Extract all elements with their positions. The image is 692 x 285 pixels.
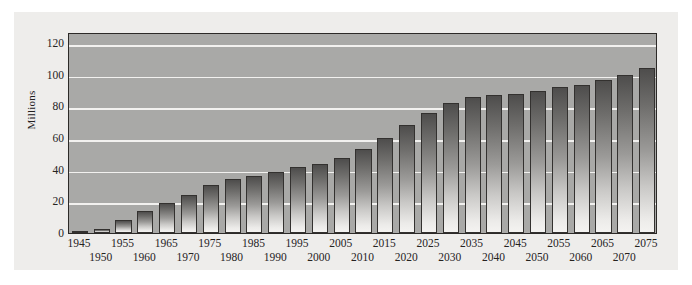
bar bbox=[115, 220, 131, 233]
bar bbox=[595, 80, 611, 233]
x-axis-tick-label: 1945 bbox=[62, 238, 96, 250]
x-axis-tick-label: 1995 bbox=[280, 238, 314, 250]
x-axis-tick-label: 1950 bbox=[84, 252, 118, 264]
bar bbox=[246, 176, 262, 233]
bar bbox=[312, 164, 328, 233]
x-axis-tick-label: 1980 bbox=[215, 252, 249, 264]
bar bbox=[421, 113, 437, 233]
x-axis-tick-label: 2050 bbox=[520, 252, 554, 264]
y-axis-tick-label: 80 bbox=[38, 101, 64, 113]
x-axis-tick-label: 2060 bbox=[564, 252, 598, 264]
x-axis-tick-label: 2015 bbox=[367, 238, 401, 250]
bar bbox=[334, 158, 350, 233]
y-axis-tick-label: 100 bbox=[38, 70, 64, 82]
x-axis-tick-label: 1960 bbox=[127, 252, 161, 264]
bar bbox=[486, 95, 502, 233]
bar bbox=[181, 195, 197, 233]
bar bbox=[508, 94, 524, 233]
y-axis-tick-label: 40 bbox=[38, 165, 64, 177]
x-axis-tick-label: 1985 bbox=[236, 238, 270, 250]
bar bbox=[159, 203, 175, 233]
y-axis-tick-label: 20 bbox=[38, 196, 64, 208]
y-axis-tick-label: 60 bbox=[38, 133, 64, 145]
x-axis-tick-label: 2045 bbox=[498, 238, 532, 250]
bar bbox=[290, 167, 306, 233]
x-axis-tick-label: 2070 bbox=[607, 252, 641, 264]
x-axis-tick-label: 2055 bbox=[542, 238, 576, 250]
bar bbox=[639, 68, 655, 233]
x-axis-tick-label: 2010 bbox=[346, 252, 380, 264]
gridline bbox=[69, 77, 656, 79]
x-axis-tick-label: 2035 bbox=[455, 238, 489, 250]
x-axis-tick-label: 1975 bbox=[193, 238, 227, 250]
bar bbox=[377, 138, 393, 233]
x-axis-tick-label: 2025 bbox=[411, 238, 445, 250]
x-axis-tick-label: 2075 bbox=[629, 238, 663, 250]
gridline bbox=[69, 140, 656, 142]
x-axis-tick-label: 2030 bbox=[433, 252, 467, 264]
y-axis-title: Millions bbox=[25, 75, 37, 145]
bar bbox=[574, 85, 590, 233]
bar bbox=[72, 231, 88, 233]
x-axis-tick-labels: 1945195019551960196519701975198019851990… bbox=[0, 236, 692, 282]
bar bbox=[617, 75, 633, 233]
x-axis-tick-label: 1955 bbox=[106, 238, 140, 250]
bar bbox=[443, 103, 459, 233]
x-axis-tick-label: 2040 bbox=[476, 252, 510, 264]
chart-page: Millions 020406080100120 194519501955196… bbox=[0, 0, 692, 285]
bar bbox=[203, 185, 219, 233]
bar bbox=[137, 211, 153, 233]
x-axis-tick-label: 2065 bbox=[585, 238, 619, 250]
x-axis-tick-label: 2005 bbox=[324, 238, 358, 250]
bar bbox=[465, 97, 481, 233]
bar bbox=[268, 172, 284, 233]
bar bbox=[94, 229, 110, 233]
gridline bbox=[69, 108, 656, 110]
bar bbox=[530, 91, 546, 233]
bar bbox=[225, 179, 241, 233]
x-axis-tick-label: 2000 bbox=[302, 252, 336, 264]
plot-area bbox=[68, 33, 657, 234]
x-axis-tick-label: 1965 bbox=[149, 238, 183, 250]
bar bbox=[552, 87, 568, 233]
bar bbox=[399, 125, 415, 233]
gridline bbox=[69, 45, 656, 47]
x-axis-tick-label: 1990 bbox=[258, 252, 292, 264]
y-axis-tick-label: 120 bbox=[38, 38, 64, 50]
x-axis-tick-label: 1970 bbox=[171, 252, 205, 264]
x-axis-tick-label: 2020 bbox=[389, 252, 423, 264]
bar bbox=[355, 149, 371, 233]
